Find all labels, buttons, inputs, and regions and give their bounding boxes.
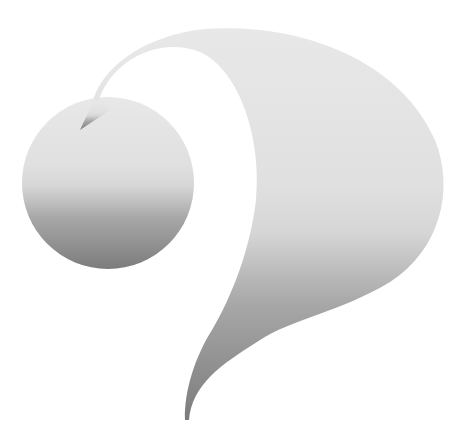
question-mark-shape-icon xyxy=(0,0,471,447)
question-mark-graphic xyxy=(0,0,471,447)
hook-ball xyxy=(22,97,194,269)
